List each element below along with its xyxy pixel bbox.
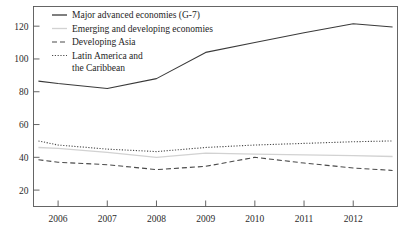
legend-label-2: Emerging and developing economies [72, 24, 213, 34]
line-chart: 20406080100120 2006200720082009201020112… [0, 0, 411, 241]
legend-label-4-line2: the Caribbean [72, 63, 125, 73]
y-tick-label: 40 [19, 153, 29, 163]
y-tick-label: 60 [19, 120, 29, 130]
y-axis: 20406080100120 [14, 22, 39, 196]
y-tick-label: 120 [14, 22, 29, 32]
legend-label-3: Developing Asia [72, 37, 136, 47]
x-tick-label: 2008 [147, 214, 166, 224]
x-tick-label: 2011 [295, 214, 314, 224]
series-line-emerging-and-developing-economies [38, 147, 392, 157]
series-line-developing-asia [38, 157, 392, 170]
legend-label-4: Latin America and [72, 51, 143, 61]
x-tick-label: 2010 [245, 214, 264, 224]
x-tick-label: 2007 [98, 214, 117, 224]
chart-container: 20406080100120 2006200720082009201020112… [0, 0, 411, 241]
x-tick-label: 2012 [344, 214, 363, 224]
x-tick-label: 2006 [49, 214, 68, 224]
y-tick-label: 20 [19, 186, 29, 196]
legend-label-1: Major advanced economies (G-7) [72, 10, 200, 21]
y-tick-label: 100 [14, 54, 29, 64]
chart-legend: Major advanced economies (G-7)Emerging a… [52, 10, 213, 73]
x-tick-label: 2009 [196, 214, 215, 224]
x-axis: 2006200720082009201020112012 [49, 201, 363, 224]
y-tick-label: 80 [19, 87, 29, 97]
series-line-latin-america-and-the-caribbean [38, 141, 392, 152]
